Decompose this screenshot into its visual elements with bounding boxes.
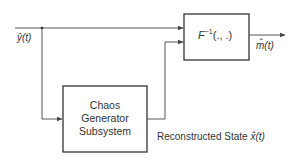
- reconstructed-state-label: Reconstructed State x̂(t): [157, 131, 265, 142]
- output-signal-label: m̂(t): [256, 40, 274, 51]
- reconstructed-state-line: [147, 42, 183, 119]
- inverse-function-sup: −1: [205, 28, 213, 35]
- reconstructed-state-symbol: x̂(t): [250, 131, 264, 142]
- branch-line: [42, 28, 62, 119]
- chaos-label-line-1: Chaos: [63, 99, 147, 112]
- inverse-function-base: F: [198, 29, 205, 41]
- chaos-generator-label: Chaos Generator Subsystem: [63, 99, 147, 138]
- inverse-function-label: F−1(., .): [198, 28, 232, 41]
- chaos-label-line-3: Subsystem: [63, 125, 147, 138]
- input-signal-label: ŷ(t): [17, 32, 31, 43]
- reconstructed-state-text: Reconstructed State: [157, 131, 248, 142]
- inverse-function-args: (., .): [213, 29, 233, 41]
- chaos-label-line-2: Generator: [63, 112, 147, 125]
